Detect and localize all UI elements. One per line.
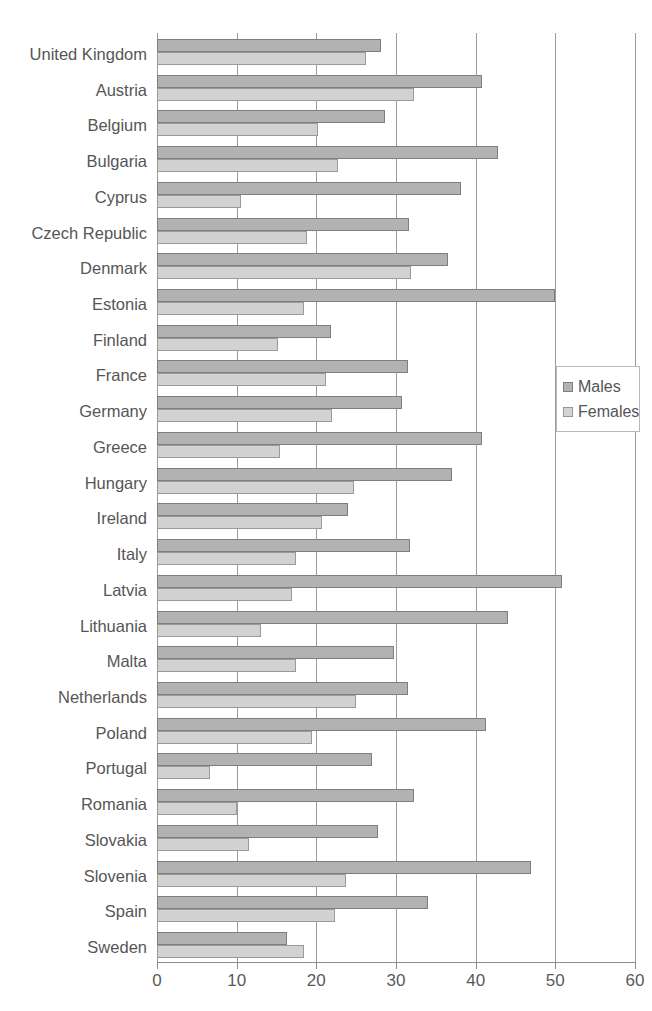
x-axis-tick	[237, 962, 238, 969]
category-label: Finland	[93, 332, 147, 349]
chart-row	[157, 676, 635, 712]
chart-row	[157, 712, 635, 748]
bar-males	[157, 539, 410, 552]
x-axis-tick	[316, 962, 317, 969]
x-axis-tick	[157, 962, 158, 969]
bar-males	[157, 682, 408, 695]
chart-row	[157, 891, 635, 927]
bar-females	[157, 373, 326, 386]
bar-females	[157, 766, 210, 779]
gridline	[635, 33, 636, 962]
chart-row	[157, 533, 635, 569]
category-label: Latvia	[103, 582, 147, 599]
bar-females	[157, 874, 346, 887]
x-axis-tick-label: 0	[152, 971, 161, 991]
category-label: Slovenia	[84, 868, 147, 885]
bar-females	[157, 909, 335, 922]
chart-row	[157, 783, 635, 819]
category-label: Ireland	[97, 510, 147, 527]
x-axis-tick	[396, 962, 397, 969]
bar-males	[157, 218, 409, 231]
category-label: Bulgaria	[86, 153, 147, 170]
x-axis-tick	[635, 962, 636, 969]
category-label: Greece	[93, 439, 147, 456]
legend-label-females: Females	[578, 403, 639, 421]
chart-row	[157, 819, 635, 855]
legend-item-females: Females	[563, 399, 639, 424]
chart-row	[157, 140, 635, 176]
legend-label-males: Males	[578, 378, 621, 396]
bar-females	[157, 195, 241, 208]
chart-row	[157, 176, 635, 212]
chart-legend: Males Females	[556, 366, 640, 432]
bar-females	[157, 731, 312, 744]
bar-males	[157, 39, 381, 52]
chart-row	[157, 247, 635, 283]
bar-females	[157, 159, 338, 172]
bar-males	[157, 396, 402, 409]
bar-males	[157, 110, 385, 123]
chart-row	[157, 640, 635, 676]
category-label: France	[96, 367, 147, 384]
bar-females	[157, 88, 414, 101]
legend-item-males: Males	[563, 374, 639, 399]
chart-row	[157, 926, 635, 962]
bar-females	[157, 659, 296, 672]
legend-swatch-females-icon	[563, 407, 573, 417]
chart-row	[157, 283, 635, 319]
category-label: Czech Republic	[31, 225, 147, 242]
x-axis-tick	[476, 962, 477, 969]
bar-males	[157, 611, 508, 624]
x-axis-tick-label: 40	[466, 971, 485, 991]
bar-males	[157, 360, 408, 373]
x-axis-tick-label: 20	[307, 971, 326, 991]
bar-males	[157, 825, 378, 838]
chart-row	[157, 462, 635, 498]
category-label: Lithuania	[80, 618, 147, 635]
bar-females	[157, 338, 278, 351]
bar-males	[157, 718, 486, 731]
chart-row	[157, 212, 635, 248]
chart-row	[157, 69, 635, 105]
chart-row	[157, 855, 635, 891]
category-label: Poland	[96, 725, 147, 742]
bar-females	[157, 695, 356, 708]
category-label: Germany	[79, 403, 147, 420]
bar-females	[157, 481, 354, 494]
category-label: Malta	[107, 653, 147, 670]
category-label: Austria	[96, 82, 147, 99]
category-label: Spain	[105, 903, 147, 920]
x-axis-tick-label: 10	[227, 971, 246, 991]
bar-females	[157, 409, 332, 422]
category-label: Denmark	[80, 260, 147, 277]
category-label: Cyprus	[95, 189, 147, 206]
bar-males	[157, 503, 348, 516]
bar-males	[157, 789, 414, 802]
bar-males	[157, 646, 394, 659]
category-label: Portugal	[86, 760, 147, 777]
chart-row	[157, 319, 635, 355]
bar-females	[157, 516, 322, 529]
category-label: Hungary	[85, 475, 147, 492]
x-axis-tick-label: 30	[387, 971, 406, 991]
bar-females	[157, 52, 366, 65]
chart-row	[157, 498, 635, 534]
bar-males	[157, 932, 287, 945]
chart-row	[157, 33, 635, 69]
bar-males	[157, 146, 498, 159]
category-label: Netherlands	[58, 689, 147, 706]
legend-swatch-males-icon	[563, 382, 573, 392]
x-axis-tick	[555, 962, 556, 969]
category-label: Estonia	[92, 296, 147, 313]
bar-males	[157, 289, 555, 302]
bar-males	[157, 75, 482, 88]
bar-females	[157, 802, 237, 815]
category-label: Italy	[117, 546, 147, 563]
bar-males	[157, 253, 448, 266]
x-axis-tick-label: 50	[546, 971, 565, 991]
category-label: Sweden	[87, 939, 147, 956]
bar-males	[157, 753, 372, 766]
category-label: Romania	[81, 796, 147, 813]
bar-males	[157, 468, 452, 481]
bar-females	[157, 302, 304, 315]
